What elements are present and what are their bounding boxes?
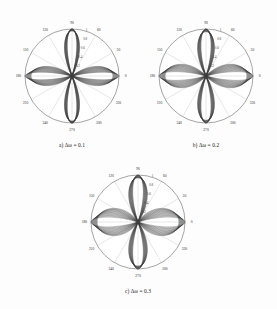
angle-tick-label: 330 [182,247,188,251]
radial-tick-label: 1 [220,28,222,32]
panel-b-plot: 03060901201501802102402703003300.20.40.6… [142,12,270,140]
angle-tick-label: 330 [250,101,256,105]
radial-tick-label: 0.6 [215,46,219,50]
polar-chart-b: 03060901201501802102402703003300.20.40.6… [142,12,270,140]
angle-tick-label: 240 [43,121,49,125]
angle-tick-label: 0 [125,74,127,78]
angle-tick-label: 240 [109,267,115,271]
radial-tick-label: 1 [152,174,154,178]
angle-tick-label: 30 [251,48,255,52]
angle-tick-label: 270 [69,128,75,132]
panel-b-caption: b) Δω = 0.2 [142,142,270,148]
radial-tick-label: 0.4 [144,201,148,205]
angle-tick-label: 90 [70,21,74,25]
angle-tick-label: 300 [96,121,102,125]
polar-chart-c: 03060901201501802102402703003300.20.40.6… [74,158,202,286]
radial-tick-label: 0.4 [78,55,82,59]
angle-tick-label: 120 [43,28,49,32]
angle-tick-label: 300 [230,121,236,125]
panel-b: 03060901201501802102402703003300.20.40.6… [142,12,270,154]
angle-tick-label: 30 [117,48,121,52]
angle-tick-label: 90 [204,21,208,25]
polar-plot-figure: 03060901201501802102402703003300.20.40.6… [0,0,277,309]
panel-a: 03060901201501802102402703003300.20.40.6… [8,12,136,154]
angle-tick-label: 60 [231,28,235,32]
radial-tick-label: 0.4 [212,55,216,59]
angle-tick-label: 0 [259,74,261,78]
angle-tick-label: 60 [97,28,101,32]
angle-tick-label: 150 [89,194,95,198]
angle-tick-label: 300 [162,267,168,271]
radial-tick-label: 0.2 [210,64,214,68]
radial-tick-label: 0.2 [76,64,80,68]
panel-a-caption: a) Δω = 0.1 [8,142,136,148]
panel-a-plot: 03060901201501802102402703003300.20.40.6… [8,12,136,140]
angle-tick-label: 270 [203,128,209,132]
angle-tick-label: 120 [177,28,183,32]
angle-tick-label: 30 [183,194,187,198]
angle-tick-label: 210 [157,101,163,105]
panel-c-caption: c) Δω = 0.3 [74,288,202,294]
angle-tick-label: 150 [23,48,29,52]
angle-tick-label: 180 [150,74,156,78]
angle-tick-label: 210 [23,101,29,105]
angle-tick-label: 240 [177,121,183,125]
angle-tick-label: 330 [116,101,122,105]
angle-tick-label: 180 [82,220,88,224]
radial-tick-label: 0.2 [142,210,146,214]
angle-tick-label: 120 [109,174,115,178]
panel-c: 03060901201501802102402703003300.20.40.6… [74,158,202,300]
radial-tick-label: 0.8 [83,37,87,41]
angle-tick-label: 0 [191,220,193,224]
angle-tick-label: 60 [163,174,167,178]
angle-tick-label: 210 [89,247,95,251]
angle-tick-label: 150 [157,48,163,52]
radial-tick-label: 0.6 [147,192,151,196]
angle-tick-label: 180 [16,74,22,78]
radial-tick-label: 1 [86,28,88,32]
panel-c-plot: 03060901201501802102402703003300.20.40.6… [74,158,202,286]
radial-tick-label: 0.6 [81,46,85,50]
radial-tick-label: 0.8 [149,183,153,187]
angle-tick-label: 270 [135,274,141,278]
radial-tick-label: 0.8 [217,37,221,41]
polar-chart-a: 03060901201501802102402703003300.20.40.6… [8,12,136,140]
angle-tick-label: 90 [136,167,140,171]
